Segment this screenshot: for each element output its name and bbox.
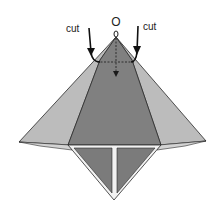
- bottom-left-triangle: [74, 148, 112, 193]
- cut-right-arrowhead-icon: [133, 46, 141, 55]
- cut-right-label: cut: [143, 21, 157, 32]
- point-o-label: O: [111, 15, 120, 29]
- apex-point-marker: [114, 31, 118, 37]
- cut-left-arrowhead-icon: [87, 48, 95, 56]
- cut-left-label: cut: [66, 23, 80, 34]
- bottom-right-triangle: [117, 148, 155, 193]
- origami-fold-diagram: O cut cut: [0, 0, 214, 210]
